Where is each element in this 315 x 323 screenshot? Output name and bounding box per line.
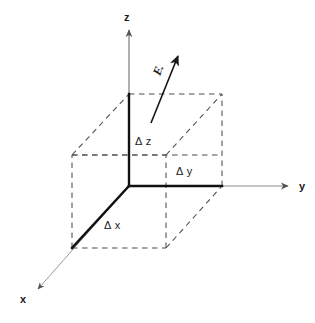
z-axis-label: z: [124, 11, 130, 23]
cube-edge-far-bottom-right-diagonal: [166, 186, 222, 248]
cube-edge-top-right-diagonal: [166, 94, 222, 155]
diagram-canvas: [0, 0, 315, 323]
x-axis-label: x: [20, 293, 26, 305]
delta-x-label: Δ x: [104, 219, 121, 231]
y-axis-label: y: [299, 180, 305, 192]
cube-solid-edges: [72, 94, 222, 248]
cube-edge-top-left-diagonal: [72, 94, 129, 155]
volume-element-diagram: z y x Δ z Δ y Δ x → F: [0, 0, 315, 323]
delta-x-edge: [72, 186, 129, 248]
delta-z-label: Δ z: [135, 135, 152, 147]
delta-y-label: Δ y: [176, 165, 193, 177]
